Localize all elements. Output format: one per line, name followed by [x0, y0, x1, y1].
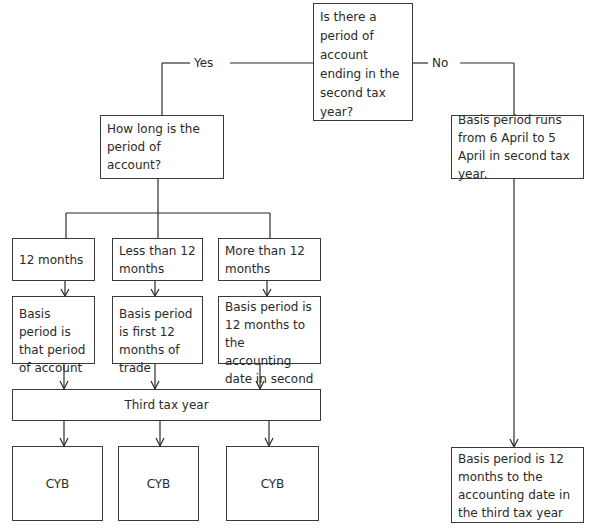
option-box-12-months: 12 months — [12, 238, 95, 281]
yes-label: Yes — [190, 56, 217, 70]
option-label: 12 months — [19, 251, 83, 269]
arrow-2a — [151, 281, 159, 296]
option-label: More than 12 months — [225, 242, 314, 278]
outcome-text: CYB — [46, 475, 70, 493]
outcome-box-cyb-2: CYB — [118, 446, 199, 521]
root-question-text: Is there a period of account ending in t… — [320, 10, 399, 119]
outcome-text: CYB — [147, 475, 171, 493]
option-box-more-than-12: More than 12 months — [218, 238, 321, 281]
third-tax-year-bar: Third tax year — [12, 389, 321, 421]
basis-box-12-months: Basis period is that period of account — [12, 296, 95, 364]
basis-text: Basis period is that period of account — [19, 307, 85, 375]
no-basis-third-year-text: Basis period is 12 months to the account… — [458, 452, 570, 520]
period-length-question-text: How long is the period of account? — [107, 120, 217, 174]
arrow-1c — [60, 421, 68, 446]
arrow-3a — [263, 281, 271, 296]
arrow-2b — [151, 364, 159, 389]
no-basis-second-year-box: Basis period runs from 6 April to 5 Apri… — [451, 115, 584, 179]
no-basis-second-year-text: Basis period runs from 6 April to 5 Apri… — [458, 111, 577, 183]
root-question-box: Is there a period of account ending in t… — [313, 3, 413, 121]
basis-box-less-than-12: Basis period is first 12 months of trade — [112, 296, 203, 364]
basis-box-more-than-12: Basis period is 12 months to the account… — [218, 296, 321, 364]
third-tax-year-text: Third tax year — [124, 396, 208, 414]
no-basis-third-year-box: Basis period is 12 months to the account… — [451, 447, 584, 523]
outcome-box-cyb-1: CYB — [12, 446, 103, 521]
period-length-question-box: How long is the period of account? — [100, 115, 224, 179]
no-label: No — [428, 56, 452, 70]
arrow-2c — [156, 421, 164, 446]
arrow-right-long — [510, 178, 518, 447]
arrow-3c — [265, 421, 273, 446]
outcome-text: CYB — [261, 475, 285, 493]
arrow-1a — [61, 281, 69, 296]
option-box-less-than-12: Less than 12 months — [112, 238, 203, 281]
option-label: Less than 12 months — [119, 242, 196, 278]
outcome-box-cyb-3: CYB — [226, 446, 319, 521]
